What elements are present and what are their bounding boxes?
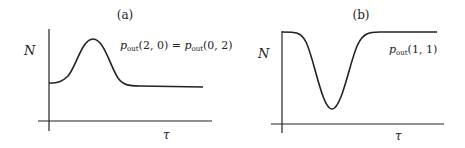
panel-a-label: (a) <box>117 8 134 22</box>
panel-a-annotation: pout(2, 0) = pout(0, 2) <box>120 39 233 53</box>
panel-b-y-label: N <box>257 46 270 61</box>
panel-b-x-label: τ <box>395 129 402 143</box>
panel-a-x-label: τ <box>163 128 170 142</box>
panel-a-y-label: N <box>23 43 36 58</box>
figure: (a) N τ pout(2, 0) = pout(0, 2) (b) N τ … <box>0 0 465 148</box>
panel-a: (a) N τ pout(2, 0) = pout(0, 2) <box>23 8 233 142</box>
panel-b: (b) N τ pout(1, 1) <box>257 8 444 143</box>
panel-b-annotation: pout(1, 1) <box>389 43 437 57</box>
panel-b-label: (b) <box>352 8 369 22</box>
